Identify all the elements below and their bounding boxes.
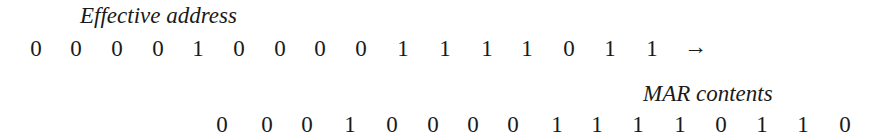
ea-bit-2: 0 bbox=[107, 36, 127, 62]
mar-bit-12: 0 bbox=[711, 112, 731, 138]
mar-bit-1: 0 bbox=[257, 112, 277, 138]
ea-bit-6: 0 bbox=[270, 36, 290, 62]
mar-bit-14: 1 bbox=[793, 112, 813, 138]
right-arrow-icon: → bbox=[684, 34, 707, 60]
mar-bit-10: 1 bbox=[628, 112, 648, 138]
mar-bit-7: 0 bbox=[503, 112, 523, 138]
ea-bit-0: 0 bbox=[26, 36, 46, 62]
mar-bit-9: 1 bbox=[587, 112, 607, 138]
ea-bit-4: 1 bbox=[188, 36, 208, 62]
ea-bit-15: 1 bbox=[642, 36, 662, 62]
mar-bit-15: 0 bbox=[835, 112, 855, 138]
ea-bit-9: 1 bbox=[393, 36, 413, 62]
ea-bit-10: 1 bbox=[435, 36, 455, 62]
mar-bit-4: 0 bbox=[382, 112, 402, 138]
ea-bit-7: 0 bbox=[310, 36, 330, 62]
ea-bit-1: 0 bbox=[66, 36, 86, 62]
ea-bit-5: 0 bbox=[229, 36, 249, 62]
mar-bit-0: 0 bbox=[212, 112, 232, 138]
effective-address-label: Effective address bbox=[80, 3, 237, 29]
ea-bit-14: 1 bbox=[600, 36, 620, 62]
mar-bit-5: 0 bbox=[423, 112, 443, 138]
mar-bit-3: 1 bbox=[340, 112, 360, 138]
ea-bit-12: 1 bbox=[517, 36, 537, 62]
mar-bit-8: 1 bbox=[547, 112, 567, 138]
ea-bit-11: 1 bbox=[477, 36, 497, 62]
ea-bit-8: 0 bbox=[351, 36, 371, 62]
ea-bit-3: 0 bbox=[148, 36, 168, 62]
mar-bit-11: 1 bbox=[670, 112, 690, 138]
mar-bit-2: 0 bbox=[297, 112, 317, 138]
ea-bit-13: 0 bbox=[559, 36, 579, 62]
mar-bit-13: 1 bbox=[752, 112, 772, 138]
mar-bit-6: 0 bbox=[463, 112, 483, 138]
mar-contents-label: MAR contents bbox=[643, 81, 773, 107]
